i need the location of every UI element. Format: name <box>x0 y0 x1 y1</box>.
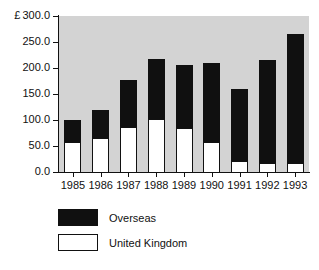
x-tick-label: 1993 <box>281 179 309 191</box>
bar-segment-overseas <box>259 60 276 163</box>
x-tick-mark <box>101 173 102 177</box>
bar-segment-overseas <box>203 63 220 142</box>
bar-segment-overseas <box>148 59 165 120</box>
legend-swatch-united-kingdom <box>58 234 98 251</box>
x-tick-label: 1988 <box>142 179 170 191</box>
bar-segment-united-kingdom <box>259 163 276 172</box>
bar-segment-overseas <box>64 120 81 142</box>
y-tick-mark <box>53 172 59 173</box>
x-tick-label: 1989 <box>170 179 198 191</box>
bar-1989 <box>176 65 193 172</box>
bar-1987 <box>120 80 137 172</box>
legend-swatch-overseas <box>58 209 98 226</box>
y-tick-label: £300.0 <box>0 10 50 21</box>
x-tick-mark <box>295 173 296 177</box>
bar-segment-united-kingdom <box>64 142 81 172</box>
x-tick-mark <box>267 173 268 177</box>
y-tick-label: 50.0 <box>0 140 50 151</box>
y-tick-mark <box>53 68 59 69</box>
bar-segment-overseas <box>176 65 193 128</box>
bar-1991 <box>231 89 248 172</box>
bar-1985 <box>64 120 81 172</box>
legend-item-overseas: Overseas <box>58 207 298 228</box>
y-tick-label: 250.0 <box>0 36 50 47</box>
bar-segment-overseas <box>231 89 248 161</box>
bar-1988 <box>148 59 165 172</box>
bar-segment-united-kingdom <box>148 119 165 172</box>
bar-segment-overseas <box>120 80 137 127</box>
legend-label-overseas: Overseas <box>109 212 156 224</box>
y-tick-label: 200.0 <box>0 62 50 73</box>
bar-segment-united-kingdom <box>287 163 304 172</box>
x-tick-label: 1987 <box>115 179 143 191</box>
bar-segment-overseas <box>92 110 109 138</box>
x-tick-mark <box>73 173 74 177</box>
x-tick-label: 1991 <box>226 179 254 191</box>
bar-segment-united-kingdom <box>231 161 248 172</box>
y-tick-label: 150.0 <box>0 88 50 99</box>
currency-symbol: £ <box>14 9 20 21</box>
bar-segment-united-kingdom <box>92 138 109 172</box>
x-tick-mark <box>128 173 129 177</box>
y-tick-label: 100.0 <box>0 114 50 125</box>
bar-segment-united-kingdom <box>203 142 220 172</box>
legend-label-united-kingdom: United Kingdom <box>109 237 187 249</box>
y-tick-value: 300.0 <box>22 9 50 21</box>
x-tick-label: 1992 <box>253 179 281 191</box>
bar-1986 <box>92 110 109 172</box>
y-tick-mark <box>53 146 59 147</box>
y-tick-value: 50.0 <box>29 139 50 151</box>
bar-segment-united-kingdom <box>176 128 193 172</box>
y-tick-value: 0.0 <box>35 165 50 177</box>
y-tick-value: 100.0 <box>22 113 50 125</box>
x-tick-mark <box>156 173 157 177</box>
y-tick-mark <box>53 120 59 121</box>
bar-1993 <box>287 34 304 172</box>
bar-1992 <box>259 60 276 172</box>
x-tick-mark <box>184 173 185 177</box>
x-tick-label: 1990 <box>198 179 226 191</box>
figure: £300.0250.0200.0150.0100.050.00.0 198519… <box>0 0 319 270</box>
y-tick-value: 250.0 <box>22 35 50 47</box>
y-tick-label: 0.0 <box>0 166 50 177</box>
y-tick-mark <box>53 42 59 43</box>
y-tick-mark <box>53 94 59 95</box>
y-tick-mark <box>53 16 59 17</box>
bar-segment-overseas <box>287 34 304 163</box>
y-tick-value: 200.0 <box>22 61 50 73</box>
legend-item-united-kingdom: United Kingdom <box>58 232 298 253</box>
x-tick-label: 1986 <box>87 179 115 191</box>
x-tick-mark <box>212 173 213 177</box>
x-tick-mark <box>240 173 241 177</box>
legend: Overseas United Kingdom <box>58 207 298 257</box>
chart-area: £300.0250.0200.0150.0100.050.00.0 198519… <box>0 0 319 196</box>
x-tick-label: 1985 <box>59 179 87 191</box>
bar-1990 <box>203 63 220 172</box>
bar-segment-united-kingdom <box>120 127 137 172</box>
y-tick-value: 150.0 <box>22 87 50 99</box>
